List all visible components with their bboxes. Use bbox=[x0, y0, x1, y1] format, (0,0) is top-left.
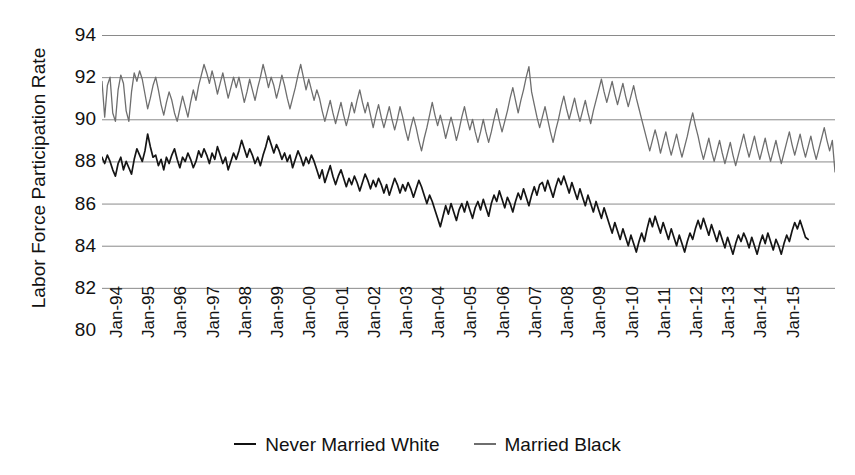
x-tick-label: Jan-96 bbox=[172, 286, 189, 338]
legend-label: Married Black bbox=[505, 435, 621, 454]
x-tick-label: Jan-01 bbox=[334, 286, 351, 338]
x-tick-label: Jan-08 bbox=[559, 286, 576, 338]
x-tick-label: Jan-03 bbox=[398, 286, 415, 338]
chart-legend: Never Married WhiteMarried Black bbox=[0, 430, 855, 458]
x-tick-label: Jan-10 bbox=[624, 286, 641, 338]
x-tick-label: Jan-11 bbox=[656, 287, 673, 338]
legend-item[interactable]: Married Black bbox=[474, 435, 621, 454]
x-tick-label: Jan-13 bbox=[720, 286, 737, 338]
x-tick-label: Jan-94 bbox=[108, 286, 125, 338]
legend-item[interactable]: Never Married White bbox=[234, 435, 439, 454]
x-tick-label: Jan-06 bbox=[495, 286, 512, 338]
x-tick-label: Jan-09 bbox=[591, 286, 608, 338]
x-tick-label: Jan-99 bbox=[269, 286, 286, 338]
chart-figure: Labor Force Participation Rate 949290888… bbox=[0, 0, 855, 475]
legend-label: Never Married White bbox=[265, 435, 439, 454]
x-tick-label: Jan-07 bbox=[527, 286, 544, 338]
x-tick-label: Jan-97 bbox=[205, 286, 222, 338]
x-tick-label: Jan-95 bbox=[140, 286, 157, 338]
x-tick-label: Jan-12 bbox=[688, 286, 705, 338]
x-tick-label: Jan-04 bbox=[430, 286, 447, 338]
x-tick-label: Jan-98 bbox=[237, 286, 254, 338]
line-swatch-dark-icon bbox=[234, 443, 256, 445]
x-axis-tick-labels: Jan-94Jan-95Jan-96Jan-97Jan-98Jan-99Jan-… bbox=[0, 0, 855, 475]
line-swatch-gray-icon bbox=[474, 443, 496, 445]
x-tick-label: Jan-15 bbox=[785, 286, 802, 338]
x-tick-label: Jan-02 bbox=[366, 286, 383, 338]
x-tick-label: Jan-00 bbox=[301, 286, 318, 338]
x-tick-label: Jan-14 bbox=[752, 286, 769, 338]
x-tick-label: Jan-05 bbox=[462, 286, 479, 338]
